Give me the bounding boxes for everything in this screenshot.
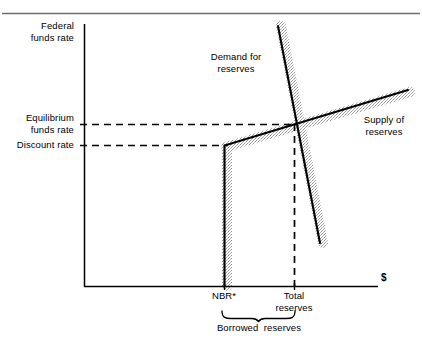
- y-tick-discount-line1: Discount rate: [17, 139, 74, 150]
- figure-canvas: Federalfunds rate Equilibriumfunds rate …: [0, 0, 422, 341]
- y-axis-title: Federalfunds rate: [31, 20, 74, 43]
- demand-curve-label-line1: Demand for: [211, 51, 262, 62]
- x-tick-total-line2: reserves: [275, 302, 312, 313]
- supply-curve-label: Supply ofreserves: [348, 114, 420, 137]
- supply-curve-label-line1: Supply of: [364, 114, 405, 125]
- x-axis-title: $: [381, 272, 387, 284]
- x-tick-label-nbr: NBR*: [199, 290, 249, 302]
- demand-curve-label-line2: reserves: [217, 63, 254, 74]
- y-tick-label-equilibrium: Equilibriumfunds rate: [26, 112, 74, 135]
- y-axis-title-line1: Federal: [41, 20, 74, 31]
- x-tick-total-line1: Total: [284, 290, 305, 301]
- borrowed-reserves-label: Borrowed reserves: [203, 322, 315, 334]
- x-tick-label-total-reserves: Totalreserves: [266, 290, 322, 313]
- demand-curve-label: Demand forreserves: [190, 51, 282, 74]
- supply-curve-label-line2: reserves: [365, 126, 402, 137]
- y-axis-title-line2: funds rate: [31, 32, 74, 43]
- y-tick-equilibrium-line1: Equilibrium: [26, 112, 74, 123]
- y-tick-equilibrium-line2: funds rate: [31, 124, 74, 135]
- y-tick-label-discount: Discount rate: [17, 139, 74, 151]
